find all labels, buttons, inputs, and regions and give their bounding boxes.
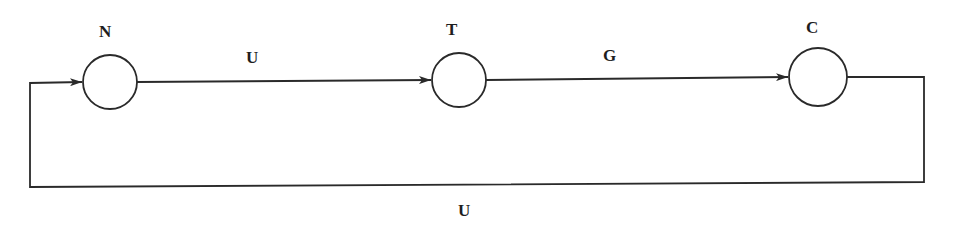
node-n-label: N (99, 22, 112, 41)
edge-t-to-c-label: G (603, 46, 616, 65)
edge-c-to-n-label: U (458, 201, 470, 220)
state-diagram: N T C U G U (0, 0, 971, 227)
edge-t-to-c (486, 77, 788, 80)
node-n (83, 55, 137, 109)
node-c-label: C (806, 18, 818, 37)
node-t-label: T (446, 20, 458, 39)
edge-n-to-t (137, 80, 431, 82)
node-t (432, 53, 486, 107)
node-c (789, 48, 847, 106)
edge-n-to-t-label: U (246, 48, 258, 67)
